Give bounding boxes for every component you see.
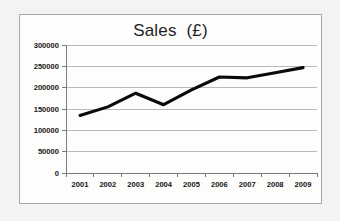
y-axis-tick-label: 50000 <box>38 147 59 156</box>
x-axis-tick-label: 2006 <box>211 180 228 189</box>
y-axis-tick-label: 200000 <box>34 83 59 92</box>
y-axis-tick-label: 300000 <box>34 41 59 50</box>
sales-line-series <box>80 68 303 116</box>
x-axis-tick-label: 2001 <box>71 180 89 189</box>
x-axis-tick-label: 2003 <box>127 180 144 189</box>
chart-plot-area: 050000100000150000200000250000300000 200… <box>20 15 323 205</box>
x-axis-tick-label: 2008 <box>267 180 284 189</box>
x-axis-tick-label: 2004 <box>155 180 173 189</box>
x-axis-tick-labels: 200120022003200420052006200720082009 <box>71 180 311 189</box>
x-axis-tick-label: 2002 <box>99 180 116 189</box>
y-axis-tick-label: 0 <box>55 169 59 178</box>
axis-group <box>62 45 317 177</box>
y-axis-tick-label: 150000 <box>34 105 59 114</box>
y-axis-tick-label: 250000 <box>34 62 59 71</box>
x-axis-tick-label: 2005 <box>183 180 201 189</box>
x-axis-tick-label: 2009 <box>295 180 312 189</box>
x-axis-tick-label: 2007 <box>239 180 256 189</box>
chart-container: Sales (£) 050000100000150000200000250000… <box>19 14 322 204</box>
y-axis-tick-labels: 050000100000150000200000250000300000 <box>34 41 59 178</box>
y-axis-tick-label: 100000 <box>34 126 59 135</box>
data-series-group <box>80 68 303 116</box>
